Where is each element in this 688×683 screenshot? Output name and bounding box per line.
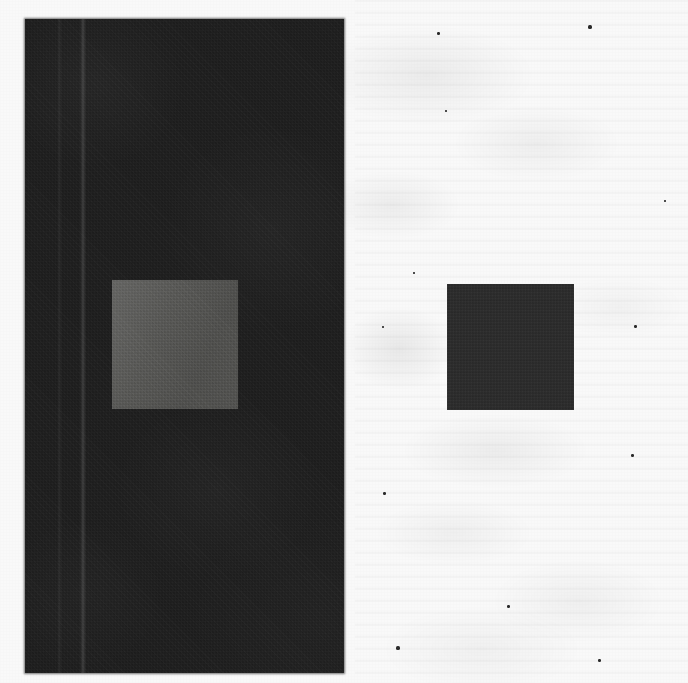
ink-speck — [507, 605, 510, 608]
light-patch-sheen — [112, 280, 238, 409]
ink-speck — [634, 325, 637, 328]
ink-speck — [588, 25, 592, 29]
panel-scan-streak-secondary — [57, 19, 62, 673]
ink-speck — [664, 200, 666, 202]
gray-patch-on-black — [112, 280, 238, 409]
ink-speck — [437, 32, 440, 35]
ink-speck — [413, 272, 415, 274]
dark-surround-panel — [25, 19, 344, 673]
ink-speck — [396, 646, 400, 650]
ink-speck — [383, 492, 386, 495]
ink-speck — [382, 326, 384, 328]
ink-speck — [631, 454, 634, 457]
ink-speck — [598, 659, 601, 662]
ink-speck — [445, 110, 447, 112]
dark-patch-grain — [447, 284, 574, 410]
figure-canvas — [0, 0, 688, 683]
panel-scan-streak — [80, 19, 86, 673]
gray-patch-on-white — [447, 284, 574, 410]
